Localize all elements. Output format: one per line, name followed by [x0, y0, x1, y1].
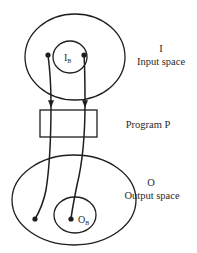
program-mapping-diagram: IB I Input space Program P OB O Output s… [0, 0, 197, 253]
mapping-path-right-lower [71, 104, 85, 219]
input-subset-ellipse [53, 41, 87, 73]
output-space-symbol: O [147, 177, 155, 188]
program: Program P [40, 110, 170, 137]
mapping-path-right-upper [84, 55, 85, 104]
output-subset-ellipse [54, 197, 96, 233]
input-space-outer-ellipse [25, 14, 125, 100]
output-space: OB O Output space [12, 155, 180, 245]
input-space: IB I Input space [25, 14, 185, 100]
output-subset-label: OB [78, 214, 89, 226]
input-space-label: Input space [137, 56, 185, 67]
mapping-path-left-upper [48, 55, 51, 104]
input-subset-label: IB [64, 52, 71, 64]
input-space-symbol: I [159, 43, 163, 54]
program-box [40, 110, 97, 137]
program-label: Program P [126, 119, 171, 130]
output-space-label: Output space [124, 190, 179, 201]
